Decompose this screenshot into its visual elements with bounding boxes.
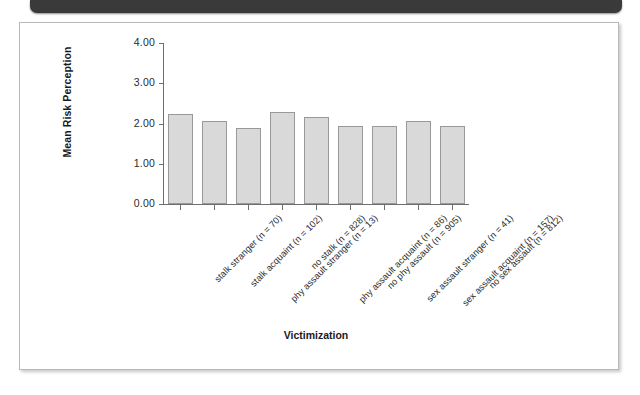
y-axis-title: Mean Risk Perception <box>61 22 73 182</box>
x-tick-mark <box>214 205 215 210</box>
y-tick-label: 3.00 <box>115 76 155 88</box>
x-tick-label: stalk stranger (n = 70) <box>213 213 284 284</box>
y-tick-mark <box>159 124 164 125</box>
bar <box>440 126 465 204</box>
y-tick-label: 4.00 <box>115 36 155 48</box>
window-header-strip <box>30 0 622 13</box>
x-tick-mark <box>180 205 181 210</box>
x-tick-mark <box>452 205 453 210</box>
y-tick-label: 2.00 <box>115 117 155 129</box>
bar <box>406 121 431 204</box>
bar <box>202 121 227 204</box>
x-tick-mark <box>418 205 419 210</box>
bar <box>372 126 397 204</box>
bar <box>338 126 363 204</box>
bar <box>168 114 193 204</box>
x-axis-title: Victimization <box>163 329 469 341</box>
y-tick-mark <box>159 164 164 165</box>
y-tick-mark <box>159 204 164 205</box>
bar <box>304 117 329 204</box>
x-tick-mark <box>384 205 385 210</box>
chart-plot-area: Mean Risk Perception Victimization 4.003… <box>20 23 620 371</box>
x-tick-mark <box>282 205 283 210</box>
bar <box>270 112 295 204</box>
bar <box>236 128 261 204</box>
y-tick-label: 1.00 <box>115 157 155 169</box>
figure-card: Mean Risk Perception Victimization 4.003… <box>19 22 619 370</box>
y-tick-label: 0.00 <box>115 197 155 209</box>
y-tick-mark <box>159 83 164 84</box>
y-tick-mark <box>159 43 164 44</box>
x-tick-mark <box>350 205 351 210</box>
x-tick-mark <box>316 205 317 210</box>
x-tick-mark <box>248 205 249 210</box>
